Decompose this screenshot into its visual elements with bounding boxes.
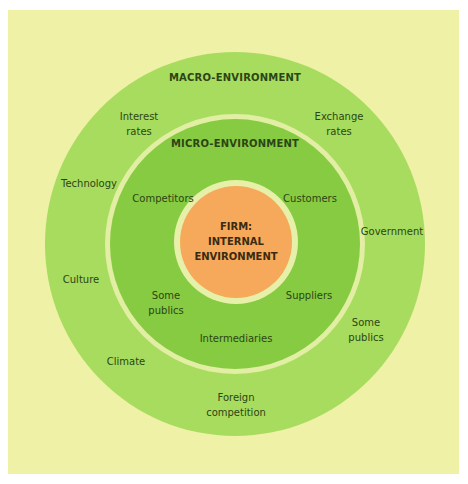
- macro-factor-exchange-rates: Exchange rates: [315, 109, 364, 139]
- micro-factor-suppliers: Suppliers: [286, 288, 332, 303]
- factor-line: Interest: [120, 109, 159, 124]
- macro-environment-title: MACRO-ENVIRONMENT: [169, 70, 301, 85]
- factor-line: rates: [315, 124, 364, 139]
- micro-factor-customers: Customers: [283, 191, 337, 206]
- micro-factor-some-publics: Some publics: [148, 288, 183, 318]
- firm-internal-environment-label: FIRM: INTERNAL ENVIRONMENT: [194, 219, 277, 264]
- factor-line: Foreign: [206, 390, 266, 405]
- macro-factor-technology: Technology: [61, 176, 117, 191]
- micro-factor-competitors: Competitors: [132, 191, 193, 206]
- macro-factor-some-publics: Some publics: [348, 315, 383, 345]
- factor-line: competition: [206, 405, 266, 420]
- factor-line: Some: [148, 288, 183, 303]
- factor-line: Some: [348, 315, 383, 330]
- macro-factor-interest-rates: Interest rates: [120, 109, 159, 139]
- core-line: INTERNAL: [194, 234, 277, 249]
- macro-factor-culture: Culture: [63, 272, 99, 287]
- core-line: FIRM:: [194, 219, 277, 234]
- micro-environment-title: MICRO-ENVIRONMENT: [171, 136, 299, 151]
- factor-line: publics: [148, 303, 183, 318]
- factor-line: Exchange: [315, 109, 364, 124]
- macro-factor-foreign-competition: Foreign competition: [206, 390, 266, 420]
- macro-factor-climate: Climate: [107, 354, 145, 369]
- micro-factor-intermediaries: Intermediaries: [200, 331, 273, 346]
- core-line: ENVIRONMENT: [194, 249, 277, 264]
- macro-factor-government: Government: [361, 224, 423, 239]
- factor-line: rates: [120, 124, 159, 139]
- factor-line: publics: [348, 330, 383, 345]
